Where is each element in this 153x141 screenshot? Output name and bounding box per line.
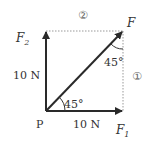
label-f: F	[126, 16, 136, 30]
label-f2: F2	[15, 31, 29, 47]
force-diagram: ② F F2 10 N 45° ① 45° P 10 N F1	[0, 0, 153, 141]
label-f1-magnitude: 10 N	[73, 118, 100, 131]
label-angle-bottom: 45°	[64, 98, 84, 111]
label-f1: F1	[115, 123, 129, 139]
label-f2-magnitude: 10 N	[13, 69, 40, 82]
label-origin-p: P	[36, 118, 44, 131]
label-angle-top: 45°	[104, 56, 124, 69]
angle-arc-top	[111, 44, 123, 49]
marker-2: ②	[78, 9, 88, 22]
vector-f-resultant	[46, 32, 122, 111]
marker-1: ①	[132, 70, 142, 83]
